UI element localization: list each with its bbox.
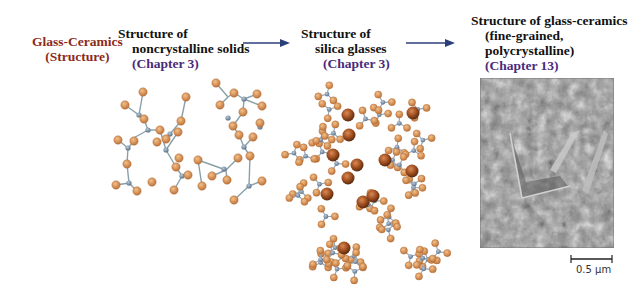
scale-bar-label: 0.5 μm xyxy=(576,264,611,275)
sem-micrograph xyxy=(480,78,614,248)
glass-ceramics-figure: Glass-Ceramics (Structure) Structure of … xyxy=(0,0,642,291)
silica-glass-network-diagram xyxy=(281,82,450,284)
scale-bar xyxy=(571,255,612,263)
arrow-icon xyxy=(406,39,455,47)
noncrystalline-network-diagram xyxy=(112,79,266,204)
arrow-icon xyxy=(243,39,290,47)
